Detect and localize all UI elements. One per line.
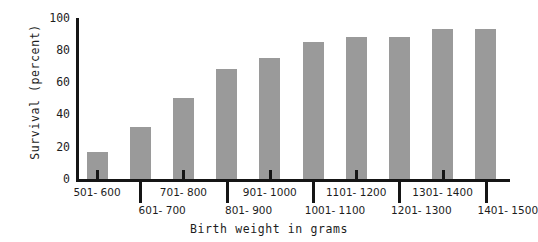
x-axis-category-label: 701- 800: [160, 186, 207, 198]
x-axis-tick: [139, 179, 142, 203]
x-axis-tick: [182, 170, 185, 180]
x-axis-category-label: 801- 900: [225, 204, 272, 216]
x-axis-tick: [269, 170, 272, 180]
bar: [259, 58, 280, 179]
bar: [130, 127, 151, 179]
x-axis-category-label: 601- 700: [139, 204, 186, 216]
x-axis-tick: [442, 170, 445, 180]
x-axis-category-label: 1301- 1400: [412, 186, 473, 198]
y-axis-title: Survival (percent): [28, 7, 42, 177]
y-axis-tick-label: 100: [49, 11, 70, 25]
x-axis-category-label: 501- 600: [73, 186, 120, 198]
x-axis-tick: [96, 170, 99, 180]
x-axis-tick: [485, 179, 488, 203]
bar: [475, 29, 496, 179]
bar: [346, 37, 367, 179]
survival-by-birth-weight-bar-chart: Survival (percent) 020406080100 501- 600…: [0, 0, 538, 242]
x-axis-category-label: 1201- 1300: [391, 204, 452, 216]
x-axis-category-label: 1001- 1100: [305, 204, 366, 216]
x-axis-tick: [312, 179, 315, 203]
y-axis-tick-label: 40: [56, 107, 70, 121]
x-axis-tick: [355, 170, 358, 180]
bar: [389, 37, 410, 179]
x-axis-tick: [226, 179, 229, 203]
bar: [173, 98, 194, 179]
y-axis-tick-label: 0: [63, 172, 70, 186]
y-axis-tick-label: 80: [56, 43, 70, 57]
y-axis-tick-label: 20: [56, 140, 70, 154]
y-axis-tick-label: 60: [56, 75, 70, 89]
bar: [432, 29, 453, 179]
bar: [216, 69, 237, 179]
y-axis-line: [76, 18, 79, 181]
x-axis-category-label: 1101- 1200: [326, 186, 387, 198]
x-axis-tick: [398, 179, 401, 203]
x-axis-title: Birth weight in grams: [0, 222, 538, 236]
x-axis-category-label: 1401- 1500: [478, 204, 538, 216]
x-axis-category-label: 901- 1000: [243, 186, 297, 198]
plot-area: 020406080100: [76, 14, 512, 182]
bar: [303, 42, 324, 179]
